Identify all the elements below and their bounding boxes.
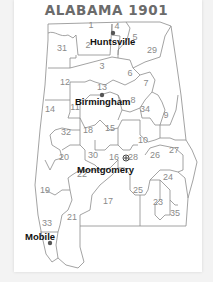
district-label: 15: [105, 123, 115, 133]
district-label: 33: [42, 218, 52, 228]
district-label: 29: [147, 45, 157, 55]
city-label: Huntsville: [90, 36, 135, 47]
district-label: 17: [103, 196, 113, 206]
city-label: Montgomery: [77, 164, 135, 175]
district-label: 1: [88, 20, 93, 30]
district-label: 19: [40, 185, 50, 195]
district-label: 10: [138, 135, 148, 145]
district-label: 7: [143, 78, 148, 88]
district-label: 23: [153, 197, 163, 207]
district-label: 21: [67, 212, 77, 222]
district-label: 25: [133, 185, 143, 195]
district-label: 34: [140, 104, 150, 114]
district-label: 30: [88, 150, 98, 160]
district-label: 28: [128, 152, 138, 162]
district-label: 27: [169, 145, 179, 155]
district-label: 18: [83, 125, 93, 135]
district-label: 12: [60, 77, 70, 87]
district-label: 14: [45, 104, 55, 114]
district-label: 8: [130, 95, 135, 105]
district-label: 4: [114, 21, 119, 31]
district-label: 13: [97, 82, 107, 92]
district-label: 32: [61, 127, 71, 137]
city-label: Birmingham: [75, 96, 130, 107]
district-label: 31: [57, 43, 67, 53]
city-dot-icon: [111, 31, 115, 35]
district-label: 26: [150, 150, 160, 160]
city-label: Mobile: [25, 231, 55, 242]
district-label: 20: [59, 152, 69, 162]
alabama-district-map: 1234567891011121314151617181920212223242…: [0, 0, 213, 282]
district-label: 3: [99, 61, 104, 71]
district-label: 16: [109, 152, 119, 162]
district-label: 35: [170, 208, 180, 218]
district-label: 9: [163, 110, 168, 120]
district-label: 6: [127, 68, 132, 78]
district-label: 24: [163, 172, 173, 182]
